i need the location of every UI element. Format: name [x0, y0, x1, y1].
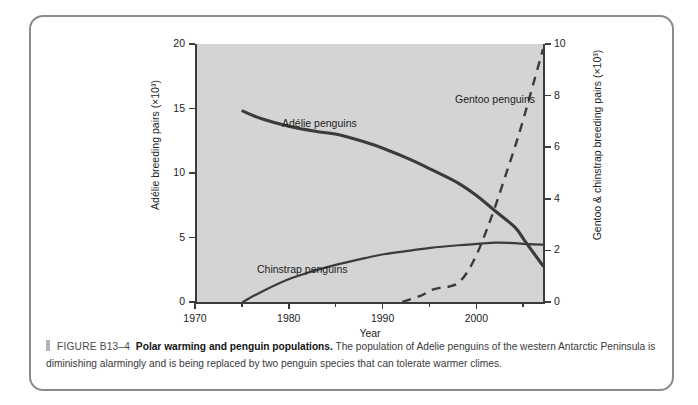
x-tick-major — [288, 303, 290, 309]
y-tick-left — [189, 43, 195, 45]
chart-curves-svg — [196, 44, 543, 302]
series-label-adelie: Adélie penguins — [282, 117, 357, 129]
y-tick-label-left: 0 — [140, 295, 185, 307]
y-tick-label-right: 10 — [554, 37, 584, 49]
x-tick-label: 2000 — [451, 312, 501, 324]
y-tick-label-right: 8 — [554, 89, 584, 101]
y-axis-left-spine — [195, 44, 197, 303]
y-axis-left-title: Adélie breeding pairs (×10³) — [149, 30, 161, 260]
y-tick-label-left: 10 — [140, 166, 185, 178]
plot-background — [196, 44, 543, 302]
y-tick-label-left: 5 — [140, 231, 185, 243]
y-axis-right-title: Gentoo & chinstrap breeding pairs (×10³) — [591, 20, 603, 270]
x-tick-label: 1980 — [264, 312, 314, 324]
chart-plot-region: 0510152002468101970198019902000 Adélie b… — [132, 31, 602, 321]
x-tick-minor — [429, 303, 431, 307]
y-tick-label-right: 2 — [554, 243, 584, 255]
y-tick-label-right: 4 — [554, 192, 584, 204]
x-tick-label: 1970 — [170, 312, 220, 324]
series-label-chinstrap: Chinstrap penguins — [257, 263, 347, 275]
caption-marker-icon — [46, 340, 50, 351]
figure-number: FIGURE B13–4 — [57, 341, 130, 352]
y-tick-left — [189, 237, 195, 239]
y-axis-right-spine — [543, 44, 545, 303]
x-tick-major — [382, 303, 384, 309]
figure-title: Polar warming and penguin populations. — [136, 341, 333, 352]
x-axis-spine — [195, 302, 545, 304]
x-tick-minor — [241, 303, 243, 307]
y-tick-right — [545, 198, 551, 200]
x-tick-major — [194, 303, 196, 309]
series-label-gentoo: Gentoo penguins — [455, 93, 535, 105]
x-tick-major — [476, 303, 478, 309]
y-tick-right — [545, 301, 551, 303]
y-tick-label-right: 6 — [554, 140, 584, 152]
y-tick-label-left: 20 — [140, 37, 185, 49]
y-tick-left — [189, 108, 195, 110]
y-tick-label-left: 15 — [140, 102, 185, 114]
x-tick-label: 1990 — [358, 312, 408, 324]
series-line-gentoo — [402, 49, 543, 302]
y-tick-right — [545, 146, 551, 148]
x-axis-title: Year — [195, 327, 545, 339]
figure-caption: FIGURE B13–4 Polar warming and penguin p… — [46, 339, 662, 372]
y-tick-left — [189, 172, 195, 174]
x-tick-minor — [522, 303, 524, 307]
figure-page: 0510152002468101970198019902000 Adélie b… — [0, 0, 698, 405]
x-tick-minor — [335, 303, 337, 307]
figure-frame: 0510152002468101970198019902000 Adélie b… — [29, 15, 674, 391]
y-tick-label-right: 0 — [554, 295, 584, 307]
y-tick-right — [545, 95, 551, 97]
y-tick-right — [545, 43, 551, 45]
y-tick-right — [545, 250, 551, 252]
